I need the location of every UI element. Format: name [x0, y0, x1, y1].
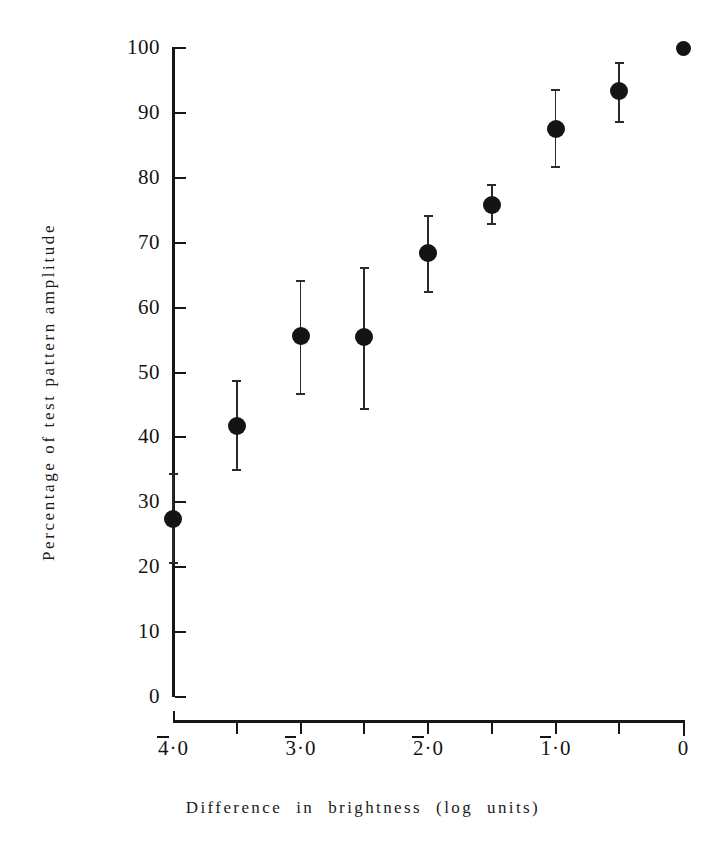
- error-bar-cap-lower: [232, 469, 241, 471]
- x-tick-label: 4·0: [158, 737, 188, 759]
- x-axis-title-word: units): [487, 798, 540, 818]
- x-tick: [555, 723, 557, 734]
- data-point-marker: [547, 120, 565, 138]
- y-tick: [175, 372, 186, 374]
- data-point-marker: [292, 327, 310, 345]
- y-tick-label: 80: [0, 167, 160, 188]
- y-tick: [175, 242, 186, 244]
- data-point-marker: [355, 328, 373, 346]
- y-tick-label: 10: [0, 621, 160, 642]
- error-bar-cap-lower: [487, 223, 496, 225]
- y-tick-label: 0: [0, 686, 160, 707]
- error-bar-cap-upper: [296, 280, 305, 282]
- data-point-marker: [610, 82, 628, 100]
- y-tick: [175, 631, 186, 633]
- error-bar-cap-lower: [551, 166, 560, 168]
- x-tick: [300, 723, 302, 734]
- y-tick-label: 60: [0, 297, 160, 318]
- x-axis-left-cap: [173, 711, 175, 721]
- data-point-marker: [228, 417, 246, 435]
- x-axis-title-word: (log: [436, 798, 473, 818]
- x-tick-label: 2·0: [413, 737, 443, 759]
- error-bar-cap-upper: [169, 473, 178, 475]
- y-tick-label: 70: [0, 232, 160, 253]
- overbar-digit: 2: [413, 737, 424, 759]
- y-tick: [175, 501, 186, 503]
- x-axis-title: Differenceinbrightness(logunits): [0, 798, 726, 818]
- y-tick: [175, 307, 186, 309]
- fraction-digit: 0: [433, 736, 444, 760]
- y-tick: [175, 177, 186, 179]
- y-tick-label: 50: [0, 362, 160, 383]
- y-tick-label: 30: [0, 491, 160, 512]
- error-bar-cap-lower: [360, 408, 369, 410]
- error-bar-cap-lower: [615, 121, 624, 123]
- data-point-marker: [483, 196, 501, 214]
- x-tick: [618, 723, 620, 734]
- error-bar-cap-lower: [296, 393, 305, 395]
- error-bar-cap-upper: [615, 62, 624, 64]
- error-bar-cap-upper: [232, 380, 241, 382]
- overbar-digit: 4: [158, 737, 169, 759]
- decimal-middot: ·: [169, 737, 178, 759]
- error-bar-cap-lower: [169, 562, 178, 564]
- y-tick: [175, 436, 186, 438]
- x-axis-line: [173, 720, 685, 723]
- x-tick: [236, 723, 238, 734]
- y-tick-label: 90: [0, 102, 160, 123]
- y-tick-label: 100: [0, 37, 160, 58]
- error-bar-cap-upper: [424, 215, 433, 217]
- error-bar-cap-upper: [487, 184, 496, 186]
- error-bar-cap-upper: [551, 89, 560, 91]
- decimal-middot: ·: [551, 737, 560, 759]
- x-axis-title-word: Difference: [186, 798, 282, 818]
- y-tick-label: 40: [0, 426, 160, 447]
- x-tick-label: 3·0: [286, 737, 316, 759]
- chart-figure: 0102030405060708090100 4·03·02·01·00 Per…: [0, 0, 726, 864]
- y-tick: [175, 112, 186, 114]
- y-axis-title: Percentage of test pattern amplitude: [39, 177, 59, 607]
- error-bar-cap-lower: [424, 291, 433, 293]
- x-tick-label: 0: [678, 737, 689, 759]
- overbar-digit: 1: [541, 737, 552, 759]
- y-tick: [175, 696, 186, 698]
- fraction-digit: 0: [178, 736, 189, 760]
- x-axis-right-cap: [683, 723, 685, 736]
- data-point-marker: [676, 41, 691, 56]
- fraction-digit: 0: [560, 736, 571, 760]
- data-point-marker: [164, 510, 182, 528]
- x-tick: [427, 723, 429, 734]
- y-tick-label: 20: [0, 556, 160, 577]
- overbar-digit: 3: [286, 737, 297, 759]
- fraction-digit: 0: [305, 736, 316, 760]
- x-tick: [491, 723, 493, 734]
- x-axis-title-word: brightness: [328, 798, 422, 818]
- decimal-middot: ·: [296, 737, 305, 759]
- y-tick: [175, 566, 186, 568]
- x-tick-label: 1·0: [541, 737, 571, 759]
- x-tick: [363, 723, 365, 734]
- error-bar-cap-upper: [360, 267, 369, 269]
- y-tick: [175, 47, 186, 49]
- data-point-marker: [419, 244, 437, 262]
- x-axis-title-word: in: [296, 798, 314, 818]
- decimal-middot: ·: [424, 737, 433, 759]
